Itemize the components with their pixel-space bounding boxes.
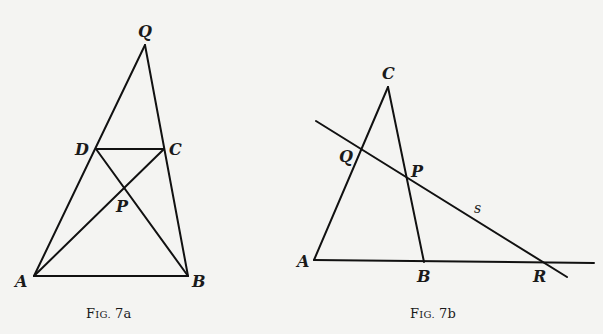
label-R: R bbox=[532, 267, 546, 286]
line-AR-extended bbox=[314, 260, 594, 263]
geometry-figures: Q D C P A B FIG.7a C Q P s A B R FIG.7b bbox=[0, 0, 603, 334]
segment-AC bbox=[34, 149, 164, 276]
figure-canvas: Q D C P A B FIG.7a C Q P s A B R FIG.7b bbox=[0, 0, 603, 334]
label-D: D bbox=[74, 140, 89, 159]
fig-7a: Q D C P A B FIG.7a bbox=[13, 22, 206, 321]
label-C: C bbox=[382, 64, 395, 83]
segment-DB bbox=[96, 149, 188, 276]
label-P: P bbox=[115, 197, 129, 216]
caption-fig-7a: FIG.7a bbox=[86, 306, 132, 321]
label-B: B bbox=[191, 272, 206, 291]
label-B: B bbox=[416, 267, 431, 286]
label-line-s: s bbox=[474, 200, 481, 216]
transversal-line-s bbox=[316, 121, 567, 277]
fig-7b: C Q P s A B R FIG.7b bbox=[295, 64, 594, 321]
segment-QA bbox=[34, 45, 145, 276]
caption-fig-7b: FIG.7b bbox=[410, 306, 456, 321]
label-C: C bbox=[169, 140, 182, 159]
label-P: P bbox=[410, 162, 424, 181]
label-A: A bbox=[295, 252, 309, 271]
label-A: A bbox=[13, 272, 27, 291]
label-Q: Q bbox=[339, 147, 353, 166]
segment-CA bbox=[314, 87, 388, 260]
label-Q: Q bbox=[138, 22, 152, 41]
